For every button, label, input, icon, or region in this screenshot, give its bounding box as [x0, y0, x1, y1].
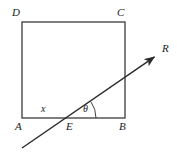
vertex-label-d: D: [12, 7, 20, 18]
vertex-label-c: C: [117, 7, 124, 18]
vertex-label-b: B: [119, 121, 126, 132]
geometry-figure: D C A B E R x θ: [0, 0, 177, 157]
angle-arc: [91, 102, 96, 118]
angle-label-theta: θ: [83, 104, 88, 114]
figure-canvas: [0, 0, 177, 157]
point-label-e: E: [66, 121, 73, 132]
segment-label-x: x: [41, 104, 45, 114]
vertex-label-a: A: [15, 121, 22, 132]
ray-label-r: R: [162, 43, 169, 54]
rectangle-abcd: [22, 22, 125, 118]
